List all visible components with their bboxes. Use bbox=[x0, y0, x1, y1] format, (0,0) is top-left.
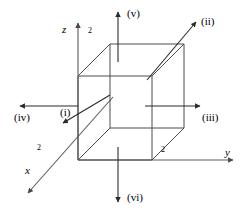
x-axis-label: x bbox=[24, 164, 30, 176]
flux-label-ii: (ii) bbox=[201, 15, 215, 28]
y-axis-label: y bbox=[224, 146, 230, 158]
flux-arrow-ii bbox=[147, 22, 196, 80]
cube-front-face bbox=[78, 76, 152, 160]
z-axis-tick-label: 2 bbox=[88, 26, 92, 35]
cube-group bbox=[78, 44, 184, 160]
flux-label-iv: (iv) bbox=[14, 111, 30, 124]
flux-label-vi: (vi) bbox=[127, 191, 143, 204]
cube-flux-diagram: z 2 y 2 x 2 (i) (ii) (iii) (iv) (v) (vi) bbox=[0, 0, 245, 215]
z-axis-label: z bbox=[61, 23, 67, 35]
flux-label-iii: (iii) bbox=[202, 111, 219, 124]
flux-label-v: (v) bbox=[127, 7, 140, 20]
flux-label-i: (i) bbox=[60, 106, 71, 119]
axes-group bbox=[28, 23, 233, 193]
cube-edge-top-right bbox=[152, 44, 184, 76]
cube-back-face bbox=[110, 44, 184, 128]
cube-edge-bottom-right bbox=[152, 128, 184, 160]
cube-edge-top-left bbox=[78, 44, 110, 76]
y-axis-tick-label: 2 bbox=[161, 145, 165, 154]
x-axis-tick-label: 2 bbox=[37, 143, 41, 152]
figure-container: z 2 y 2 x 2 (i) (ii) (iii) (iv) (v) (vi) bbox=[0, 0, 245, 215]
cube-edge-bottom-left bbox=[78, 128, 110, 160]
